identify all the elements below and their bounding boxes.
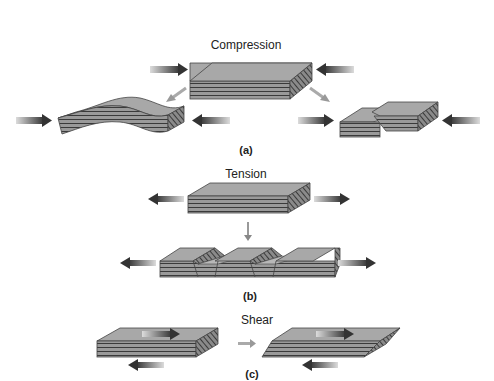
graben-arrow-left-icon	[120, 257, 156, 269]
shear-block-before	[97, 328, 218, 357]
shear-arrow-bottom-left-icon	[128, 359, 164, 371]
tension-caption: (b)	[243, 290, 257, 302]
arrow-to-fold-icon	[166, 88, 186, 102]
tension-block	[188, 183, 310, 213]
tension-title: Tension	[225, 167, 266, 181]
tension-arrow-left-icon	[148, 193, 184, 205]
panel-compression: Compression	[16, 38, 480, 156]
graben-block	[160, 248, 340, 277]
fold-arrow-right-icon	[192, 114, 230, 127]
fault-arrow-left-icon	[298, 114, 334, 127]
compression-caption: (a)	[239, 144, 253, 156]
arrow-to-fault-icon	[310, 88, 330, 102]
tension-arrow-right-icon	[314, 193, 350, 205]
compression-arrow-right-icon	[316, 63, 354, 76]
deformation-diagram: Compression	[0, 0, 494, 381]
fold-arrow-left-icon	[16, 114, 52, 127]
compression-block	[190, 63, 312, 99]
shear-arrow-bottom-right-icon	[302, 359, 338, 371]
shear-block-after	[262, 328, 400, 357]
shear-caption: (c)	[245, 368, 259, 380]
panel-tension: Tension	[120, 167, 376, 302]
shear-title: Shear	[241, 313, 273, 327]
panel-shear: Shear (c)	[97, 313, 400, 380]
compression-arrow-left-icon	[150, 63, 188, 76]
tension-down-arrow-icon	[244, 222, 252, 241]
fault-arrow-right-icon	[442, 114, 480, 127]
compression-title: Compression	[211, 38, 282, 52]
folded-block	[58, 97, 184, 134]
shear-transition-arrow-icon	[238, 339, 256, 348]
faulted-block	[340, 102, 438, 137]
graben-arrow-right-icon	[338, 257, 376, 269]
